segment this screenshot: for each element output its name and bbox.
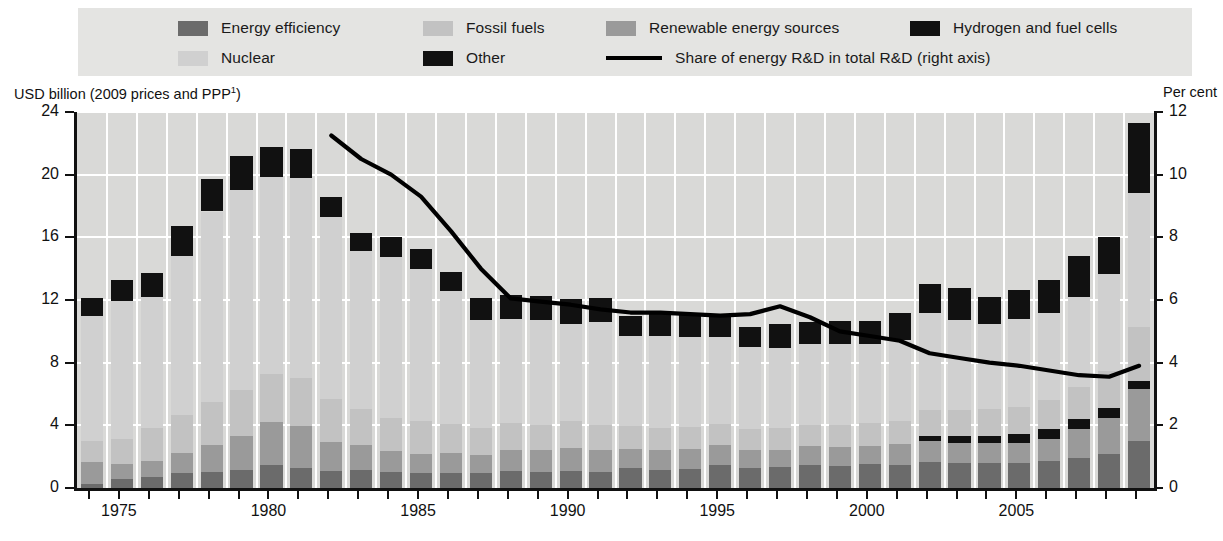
bar-1975	[111, 112, 133, 488]
bar-segment-renewable-energy-sources	[1098, 418, 1120, 455]
bar-segment-other	[799, 322, 821, 344]
legend-swatch-other	[423, 51, 453, 66]
bar-segment-energy-efficiency	[1128, 441, 1150, 488]
bar-segment-nuclear	[1038, 313, 1060, 400]
bar-1980	[260, 112, 282, 488]
bar-segment-nuclear	[1068, 297, 1090, 387]
bar-segment-renewable-energy-sources	[350, 445, 372, 470]
x-axis-tick-2006	[1045, 491, 1047, 499]
bar-segment-renewable-energy-sources	[1008, 443, 1030, 463]
gridline-vertical	[1093, 112, 1095, 488]
bar-segment-energy-efficiency	[1038, 461, 1060, 488]
bar-segment-other	[739, 327, 761, 347]
left-axis-caption: USD billion (2009 prices and PPP1)	[14, 84, 241, 102]
legend-item-share-line: Share of energy R&D in total R&D (right …	[606, 44, 990, 72]
bar-1974	[81, 112, 103, 488]
bar-segment-energy-efficiency	[889, 465, 911, 489]
x-axis-tick-1986	[447, 491, 449, 499]
gridline-vertical	[525, 112, 527, 488]
bar-segment-renewable-energy-sources	[560, 448, 582, 471]
bar-segment-renewable-energy-sources	[889, 444, 911, 464]
x-axis-tick-1995	[716, 491, 718, 499]
legend-row-2: Nuclear Other Share of energy R&D in tot…	[78, 44, 1192, 72]
bar-segment-fossil-fuels	[619, 426, 641, 449]
bar-1999	[829, 112, 851, 488]
bar-segment-energy-efficiency	[769, 467, 791, 488]
y-axis-tick-left	[65, 299, 74, 301]
bar-segment-renewable-energy-sources	[619, 449, 641, 469]
bar-segment-energy-efficiency	[829, 466, 851, 488]
bar-1995	[709, 112, 731, 488]
bar-segment-nuclear	[230, 190, 252, 391]
bar-segment-nuclear	[560, 324, 582, 421]
legend-label-nuclear: Nuclear	[221, 49, 275, 67]
bar-segment-fossil-fuels	[1068, 387, 1090, 419]
x-axis-tick-1984	[387, 491, 389, 499]
gridline-vertical	[854, 112, 856, 488]
x-axis-tick-1996	[746, 491, 748, 499]
y-axis-label-left: 0	[13, 478, 59, 496]
y-axis-label-left: 8	[13, 353, 59, 371]
bar-1993	[649, 112, 671, 488]
bar-segment-renewable-energy-sources	[410, 454, 432, 474]
bar-segment-nuclear	[530, 320, 552, 424]
bar-segment-nuclear	[948, 320, 970, 411]
gridline-vertical	[674, 112, 676, 488]
bar-segment-renewable-energy-sources	[81, 462, 103, 484]
y-axis-label-left: 4	[13, 415, 59, 433]
x-axis-tick-1987	[477, 491, 479, 499]
bar-segment-fossil-fuels	[769, 428, 791, 449]
legend-item-fossil-fuels: Fossil fuels	[423, 14, 545, 42]
bar-segment-hydrogen-and-fuel-cells	[1068, 419, 1090, 429]
bar-segment-other	[1068, 256, 1090, 297]
bar-segment-renewable-energy-sources	[230, 436, 252, 470]
bar-1985	[410, 112, 432, 488]
bar-segment-other	[709, 316, 731, 337]
x-axis-tick-1988	[507, 491, 509, 499]
bar-segment-fossil-fuels	[111, 439, 133, 464]
legend-item-nuclear: Nuclear	[178, 44, 275, 72]
bar-2004	[978, 112, 1000, 488]
bar-segment-other	[829, 321, 851, 344]
bar-segment-other	[679, 315, 701, 337]
bar-segment-energy-efficiency	[530, 472, 552, 488]
legend-swatch-fossil-fuels	[423, 21, 453, 36]
x-axis-label-2005: 2005	[981, 502, 1051, 520]
x-axis-tick-1978	[208, 491, 210, 499]
gridline-vertical	[405, 112, 407, 488]
bar-segment-other	[889, 313, 911, 340]
y-axis-tick-left	[65, 362, 74, 364]
bar-segment-energy-efficiency	[171, 473, 193, 488]
bar-segment-other	[500, 295, 522, 319]
bar-segment-fossil-fuels	[889, 421, 911, 444]
gridline-vertical	[106, 112, 108, 488]
bar-segment-renewable-energy-sources	[739, 450, 761, 468]
gridline-vertical	[704, 112, 706, 488]
bar-2007	[1068, 112, 1090, 488]
bar-segment-nuclear	[201, 212, 223, 402]
bar-segment-energy-efficiency	[260, 465, 282, 488]
bar-segment-other	[81, 298, 103, 316]
bar-segment-other	[171, 226, 193, 256]
bar-segment-other	[290, 149, 312, 178]
x-axis-tick-2008	[1105, 491, 1107, 499]
legend-swatch-renewable-energy-sources	[606, 21, 636, 36]
x-axis-tick-1985	[417, 491, 419, 499]
y-axis-tick-right	[1154, 299, 1163, 301]
bar-segment-hydrogen-and-fuel-cells	[978, 436, 1000, 443]
bar-segment-other	[769, 324, 791, 348]
gridline-vertical	[226, 112, 228, 488]
bar-segment-fossil-fuels	[260, 374, 282, 423]
bar-segment-other	[230, 156, 252, 190]
bar-segment-energy-efficiency	[799, 465, 821, 488]
bar-segment-fossil-fuels	[799, 425, 821, 446]
gridline-vertical	[256, 112, 258, 488]
legend-swatch-nuclear	[178, 51, 208, 66]
legend-item-energy-efficiency: Energy efficiency	[178, 14, 340, 42]
bar-segment-renewable-energy-sources	[290, 426, 312, 468]
gridline-vertical	[1063, 112, 1065, 488]
bar-segment-other	[1128, 123, 1150, 194]
bar-segment-energy-efficiency	[649, 470, 671, 488]
legend-label-fossil-fuels: Fossil fuels	[466, 19, 545, 37]
x-axis-label-1985: 1985	[383, 502, 453, 520]
